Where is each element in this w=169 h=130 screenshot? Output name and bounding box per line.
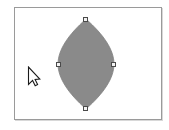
canvas-surface[interactable] — [15, 8, 161, 119]
resize-handle-right[interactable] — [111, 62, 116, 67]
shape-layer — [15, 8, 161, 119]
drawing-canvas[interactable] — [14, 7, 162, 120]
resize-handle-left[interactable] — [56, 62, 61, 67]
resize-handle-top[interactable] — [83, 17, 88, 22]
lens-shape[interactable] — [58, 19, 114, 109]
resize-handle-bottom[interactable] — [83, 106, 88, 111]
app-root — [0, 0, 169, 130]
